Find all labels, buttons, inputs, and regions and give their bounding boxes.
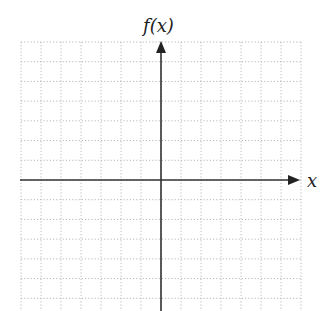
x-axis-label: x [307, 170, 317, 191]
y-axis-label: f(x) [141, 15, 174, 36]
coordinate-plane: x f(x) [0, 0, 321, 311]
y-axis-arrow-icon [156, 41, 166, 53]
x-axis-arrow-icon [288, 175, 300, 185]
